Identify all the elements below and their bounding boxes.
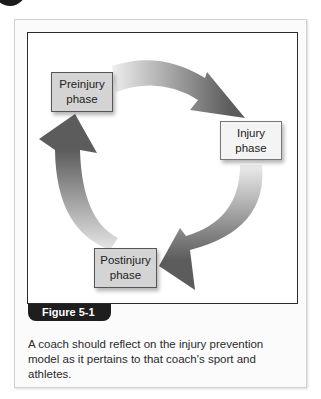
arrow-injury-to-postinjury xyxy=(159,165,262,290)
figure-label: Figure 5-1 xyxy=(28,304,111,321)
arrow-preinjury-to-injury xyxy=(112,60,245,118)
postinjury-phase-box: Postinjury phase xyxy=(94,248,157,288)
figure-caption: A coach should reflect on the injury pre… xyxy=(28,337,288,382)
injury-phase-box: Injury phase xyxy=(220,121,282,160)
preinjury-phase-box: Preinjury phase xyxy=(51,72,113,112)
arrow-postinjury-to-preinjury xyxy=(39,114,118,250)
